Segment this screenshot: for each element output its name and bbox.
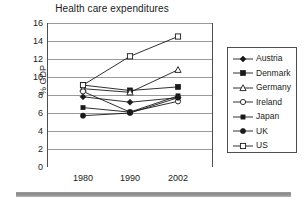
chart-page: Health care expenditures % GDP 161412108… — [0, 0, 306, 202]
data-point — [175, 67, 181, 73]
y-tick-label: 8 — [23, 90, 43, 100]
legend-item-us[interactable]: US — [232, 138, 296, 153]
plot-area: % GDP 1614121086420 198019902002 — [47, 23, 213, 167]
filled-square-icon — [232, 67, 254, 79]
legend-label: Ireland — [256, 98, 282, 107]
data-point — [80, 83, 85, 88]
data-point — [241, 114, 245, 118]
data-point — [127, 99, 133, 105]
y-tick-label: 6 — [23, 108, 43, 118]
data-point — [80, 113, 85, 118]
y-tick-label: 10 — [23, 72, 43, 82]
data-point — [127, 110, 132, 115]
legend-item-germany[interactable]: Germany — [232, 80, 296, 95]
series-us — [80, 34, 180, 88]
legend-label: Germany — [256, 83, 291, 92]
data-point — [80, 94, 86, 100]
legend-label: UK — [256, 127, 268, 136]
x-tick-label: 1980 — [63, 173, 103, 183]
data-point — [175, 84, 180, 89]
y-tick-label: 0 — [23, 162, 43, 172]
legend-label: Austria — [256, 54, 282, 63]
data-point — [175, 95, 180, 100]
series-germany — [80, 67, 181, 95]
chart-canvas — [47, 23, 213, 167]
filled-circle-icon — [232, 125, 254, 137]
filled-square-small-icon — [232, 111, 254, 123]
data-point — [175, 34, 180, 39]
legend-item-uk[interactable]: UK — [232, 124, 296, 139]
y-tick-label: 16 — [23, 18, 43, 28]
legend-item-denmark[interactable]: Denmark — [232, 66, 296, 81]
y-tick-label: 12 — [23, 54, 43, 64]
data-point — [240, 99, 245, 104]
data-point — [240, 70, 245, 75]
data-point — [240, 143, 245, 148]
x-tick-label: 2002 — [158, 173, 198, 183]
footer-bar — [16, 192, 291, 197]
open-triangle-icon — [232, 82, 254, 94]
legend-label: Denmark — [256, 69, 290, 78]
chart-legend: AustriaDenmarkGermanyIrelandJapanUKUS — [227, 47, 297, 153]
legend-label: Japan — [256, 112, 279, 121]
data-point — [127, 54, 132, 59]
data-point — [240, 128, 245, 133]
legend-item-japan[interactable]: Japan — [232, 109, 296, 124]
x-tick-label: 1990 — [110, 173, 150, 183]
chart-title: Health care expenditures — [0, 3, 224, 14]
legend-item-austria[interactable]: Austria — [232, 51, 296, 66]
data-point — [80, 89, 85, 94]
data-point — [240, 56, 246, 62]
y-tick-label: 2 — [23, 144, 43, 154]
y-tick-label: 4 — [23, 126, 43, 136]
legend-label: US — [256, 141, 268, 150]
open-circle-icon — [232, 96, 254, 108]
legend-item-ireland[interactable]: Ireland — [232, 95, 296, 110]
data-point — [81, 106, 85, 110]
filled-diamond-icon — [232, 53, 254, 65]
open-square-icon — [232, 140, 254, 152]
y-tick-label: 14 — [23, 36, 43, 46]
